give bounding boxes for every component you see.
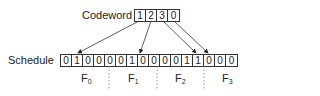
frame-label-f1: F1	[128, 72, 139, 88]
frame-label-f2: F2	[175, 72, 186, 88]
arrow-digit1-to-bit1	[78, 21, 139, 53]
frame-label-f3: F3	[222, 72, 233, 88]
arrow-digit2-to-bit6	[140, 21, 151, 53]
frame-label-f0: F0	[81, 72, 92, 88]
